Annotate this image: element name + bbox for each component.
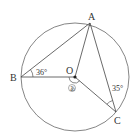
label-a: A <box>88 11 96 22</box>
segment-ab <box>21 23 90 77</box>
label-c: C <box>114 115 121 126</box>
center-point <box>73 75 76 78</box>
angle-label-35: 35° <box>112 84 123 93</box>
angle-arc-b <box>31 70 34 77</box>
segment-oc <box>75 77 116 112</box>
label-o: O <box>66 65 73 76</box>
angle-label-36: 36° <box>36 68 47 77</box>
segment-ac <box>90 23 116 112</box>
angle-arc-c <box>107 101 113 105</box>
label-b: B <box>10 72 17 83</box>
geometry-diagram: A B C O 36° 35° あ <box>0 0 140 137</box>
segment-oa <box>75 23 90 77</box>
